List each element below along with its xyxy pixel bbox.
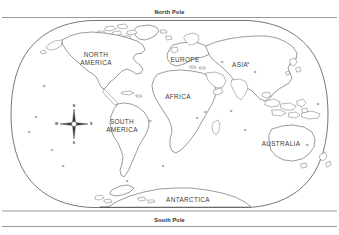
alaska-outline	[46, 40, 62, 50]
iceland-outline	[166, 36, 172, 40]
label-europe: EUROPE	[170, 56, 199, 63]
tasmania-outline	[301, 163, 307, 168]
compass-hub	[71, 121, 76, 126]
label-australia: AUSTRALIA	[262, 140, 301, 147]
world-map-canvas: N S W E North Pole South Pole NORTH AMER…	[0, 0, 339, 235]
world-map-figure: N S W E North Pole South Pole NORTH AMER…	[0, 0, 339, 235]
madagascar-outline	[212, 120, 220, 135]
label-south-america-line1: SOUTH	[110, 118, 134, 125]
south-america-outline	[110, 103, 149, 177]
south-pole-label: South Pole	[154, 217, 185, 223]
compass-label-north: N	[73, 104, 76, 108]
greenland-outline	[134, 25, 159, 40]
central-america-outline	[103, 89, 118, 105]
label-antarctica: ANTARCTICA	[166, 196, 210, 203]
label-asia: ASIA	[232, 61, 248, 68]
compass-label-east: E	[90, 122, 93, 126]
africa-outline	[152, 70, 216, 153]
label-north-america-line1: NORTH	[84, 51, 108, 58]
india-outline	[231, 79, 248, 100]
compass-rose: N S W E	[55, 104, 93, 145]
new-zealand-outline	[320, 152, 327, 161]
label-africa: AFRICA	[165, 93, 191, 100]
compass-label-west: W	[55, 122, 59, 126]
antarctic-peninsula-outline	[110, 185, 134, 196]
label-south-america-line2: AMERICA	[106, 126, 138, 133]
north-pole-label: North Pole	[155, 9, 185, 15]
compass-label-south: S	[73, 141, 76, 145]
label-north-america-line2: AMERICA	[80, 59, 112, 66]
indonesia-outline	[262, 92, 308, 118]
